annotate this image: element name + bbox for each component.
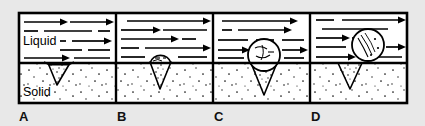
panel-d-bubble <box>352 29 384 61</box>
panel-d-letter: D <box>311 109 320 124</box>
panel-c-bubble <box>248 39 280 71</box>
bubble-nucleation-figure: Liquid Solid A <box>0 0 425 126</box>
panel-c-letter: C <box>214 109 224 124</box>
panel-a-letter: A <box>19 109 29 124</box>
panel-b-letter: B <box>117 109 126 124</box>
liquid-label: Liquid <box>23 34 56 48</box>
figure-canvas: Liquid Solid A <box>0 0 425 126</box>
solid-label: Solid <box>23 85 51 99</box>
